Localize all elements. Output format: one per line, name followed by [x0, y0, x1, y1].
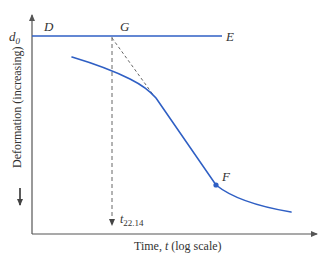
d0-label: d0 [9, 29, 21, 46]
label-g: G [120, 19, 130, 34]
y-axis-title-group: Deformation (increasing) [10, 46, 24, 168]
y-axis-title: Deformation (increasing) [10, 46, 24, 168]
x-axis-title: Time, t (log scale) [134, 239, 222, 253]
deformation-curve [72, 57, 291, 212]
label-f: F [221, 169, 231, 184]
tangent-dashed-line [112, 38, 154, 96]
point-f-marker [213, 182, 218, 187]
t-marker-label: t22.14 [120, 212, 144, 228]
label-e: E [225, 29, 234, 44]
label-d: D [43, 19, 54, 34]
consolidation-diagram: d0 D G E F t22.14 Time, t (log scale) De… [0, 0, 331, 261]
